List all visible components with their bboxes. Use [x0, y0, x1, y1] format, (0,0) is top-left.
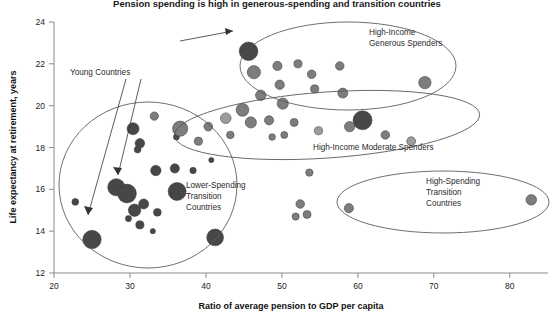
label-young-countries: Young Countries: [70, 68, 130, 77]
x-tick-label: 20: [49, 281, 59, 291]
bubble-point: [281, 131, 288, 138]
arrowhead-top-bubble: [225, 28, 233, 35]
bubble-point: [353, 111, 372, 130]
chart-title: Pension spending is high in generous-spe…: [113, 0, 441, 9]
bubble-point: [311, 85, 319, 93]
bubble-point: [139, 199, 149, 209]
bubble-point: [150, 229, 155, 234]
x-tick-label: 40: [201, 281, 211, 291]
bubble-point: [264, 116, 273, 125]
label-high-income-generous-spenders-line1: High-Income: [369, 28, 416, 37]
x-tick-label: 50: [277, 281, 287, 291]
label-high-spending-transition-countries-line3: Countries: [426, 199, 461, 208]
bubble-point: [335, 62, 344, 71]
y-tick-label: 14: [36, 226, 46, 236]
bubble-point: [296, 200, 305, 209]
x-axis: 20 30 40 50 60 70 80 Ratio of average pe…: [49, 273, 548, 311]
x-axis-title: Ratio of average pension to GDP per capi…: [199, 301, 385, 311]
bubble-point: [151, 165, 161, 175]
bubble-point: [303, 210, 311, 218]
bubble-point: [190, 167, 196, 173]
label-high-spending-transition-countries-line2: Transition: [426, 188, 462, 197]
bubble-point: [194, 137, 202, 145]
chart-canvas: Pension spending is high in generous-spe…: [0, 0, 554, 319]
x-tick-label: 80: [505, 281, 515, 291]
bubble-point: [419, 76, 431, 88]
label-high-income-generous-spenders-line2: Generous Spenders: [369, 39, 442, 48]
bubble-point: [306, 169, 313, 176]
x-tick-label: 60: [353, 281, 363, 291]
label-lower-spending-transition-countries-line3: Countries: [186, 203, 221, 212]
y-tick-label: 12: [36, 268, 46, 278]
bubble-point: [220, 113, 231, 124]
bubble-point: [150, 112, 158, 120]
bubble-chart: Pension spending is high in generous-spe…: [0, 0, 554, 319]
y-axis: 12 14 16 18 20 22 24 Life expectancy at …: [8, 17, 54, 278]
bubble-point: [170, 164, 179, 173]
bubble-point: [72, 198, 79, 205]
label-lower-spending-transition-countries-line2: Transition: [186, 192, 222, 201]
bubble-point: [118, 184, 137, 203]
bubble-point: [247, 66, 260, 79]
bubble-point: [381, 131, 390, 140]
bubble-point: [83, 230, 101, 248]
bubble-point: [526, 194, 537, 205]
ellipse-high-income-moderate-spenders: [172, 81, 482, 168]
label-lower-spending-transition-countries-line1: Lower-Spending: [186, 181, 246, 190]
ellipse-high-income-generous-spenders: [240, 22, 456, 110]
arrowhead-young-a: [113, 167, 122, 175]
y-tick-marks: [49, 22, 54, 273]
y-tick-label: 24: [36, 17, 46, 27]
y-tick-label: 18: [36, 143, 46, 153]
y-tick-labels: 12 14 16 18 20 22 24: [36, 17, 46, 278]
y-tick-label: 22: [36, 59, 46, 69]
x-tick-labels: 20 30 40 50 60 70 80: [49, 281, 515, 291]
label-high-spending-transition-countries-line1: High-Spending: [426, 177, 481, 186]
label-high-income-moderate-spenders: High-Income Moderate Spenders: [313, 143, 434, 152]
x-tick-label: 30: [125, 281, 135, 291]
bubble-point: [227, 131, 235, 139]
chart-title-group: Pension spending is high in generous-spe…: [113, 0, 441, 9]
bubble-point: [290, 118, 298, 126]
bubble-point: [275, 80, 284, 89]
bubble-point: [292, 213, 299, 220]
bubble-point: [209, 157, 214, 162]
bubble-point: [236, 103, 249, 116]
x-tick-marks: [54, 273, 510, 278]
bubble-point: [207, 229, 224, 246]
bubble-point: [314, 127, 322, 135]
y-tick-label: 16: [36, 184, 46, 194]
bubble-point: [294, 60, 302, 68]
bubble-point: [344, 121, 354, 131]
bubble-point: [134, 146, 141, 153]
bubble-point: [273, 61, 282, 70]
x-tick-label: 70: [429, 281, 439, 291]
bubble-point: [125, 216, 131, 222]
bubble-point: [269, 134, 276, 141]
bubble-series: [72, 42, 537, 249]
leader-young-to-top-bubble: [180, 31, 233, 41]
bubble-point: [307, 70, 316, 79]
bubble-point: [171, 191, 180, 200]
arrowhead-young-b: [84, 206, 93, 215]
bubble-point: [153, 208, 161, 216]
y-tick-label: 20: [36, 101, 46, 111]
y-axis-title: Life expectancy at retirement, years: [8, 70, 18, 223]
group-outlines: [59, 22, 549, 268]
bubble-point: [344, 204, 353, 213]
bubble-point: [245, 117, 256, 128]
bubble-point: [338, 88, 348, 98]
bubble-point: [136, 221, 144, 229]
annotation-labels: High-Income Generous Spenders High-Incom…: [70, 28, 481, 212]
